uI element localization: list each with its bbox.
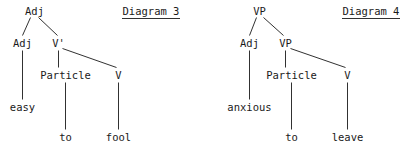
d4-leaf-adjective: anxious (227, 101, 271, 113)
branch-root-to-adj (250, 18, 257, 36)
d4-leaf-verb: leave (332, 131, 364, 143)
d4-node-v: V (344, 69, 351, 81)
branch-root-to-vp (264, 18, 284, 36)
d4-node-particle: Particle (266, 69, 317, 81)
d4-leaf-particle: to (285, 131, 298, 143)
diagram-4-tree: VP Adj VP Particle V anxious to leave Di… (0, 0, 406, 149)
d4-node-root: VP (253, 5, 266, 17)
d4-node-adj: Adj (240, 37, 259, 49)
diagram-4-caption: Diagram 4 (343, 5, 400, 17)
d4-node-vp: VP (279, 37, 292, 49)
branch-vp-to-v (291, 49, 346, 68)
figure-canvas: Adj Adj V' Particle V easy to fool Diagr… (0, 0, 406, 149)
